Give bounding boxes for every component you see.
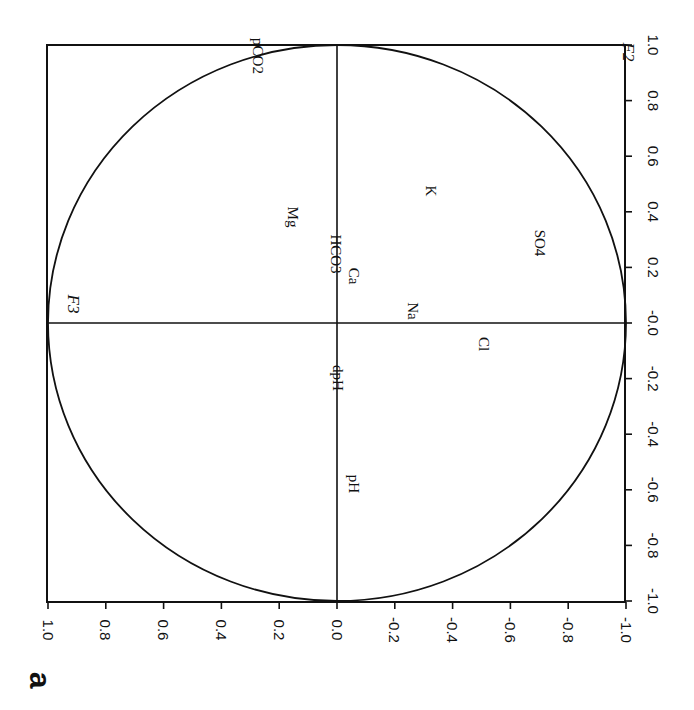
variable-label-k: K — [423, 186, 439, 197]
bottom-tick-label: 0.6 — [155, 620, 172, 641]
variable-labels: pCO2MgHCO3CaKSO4NaCldpHpH — [250, 38, 548, 493]
bottom-tick-label: 1.0 — [40, 620, 57, 641]
right-tick-label: -1.0 — [645, 588, 662, 614]
variable-label-cl: Cl — [476, 337, 492, 351]
bottom-tick-label: -0.8 — [560, 617, 577, 643]
variable-label-mg: Mg — [285, 207, 301, 228]
panel-label: a — [24, 672, 57, 689]
right-tick-label: -0.8 — [645, 532, 662, 558]
right-tick-label: 0.8 — [645, 90, 662, 111]
right-tick-label: -0.2 — [645, 366, 662, 392]
right-tick-label: -0.4 — [645, 421, 662, 447]
right-tick-label: -0.6 — [645, 477, 662, 503]
variable-label-so4: SO4 — [532, 230, 548, 257]
correlation-circle-chart: 1.00.80.60.40.2-0.0-0.2-0.4-0.6-0.8-1.0 … — [0, 0, 694, 710]
right-tick-label: 1.0 — [645, 35, 662, 56]
axis-label-f2: F2 — [619, 42, 638, 62]
axis-label-f3: F3 — [64, 294, 83, 314]
right-tick-label: 0.2 — [645, 257, 662, 278]
bottom-tick-label: -0.4 — [444, 617, 461, 643]
variable-label-pco2: pCO2 — [250, 38, 266, 74]
zero-axes — [47, 45, 625, 602]
right-tick-label: 0.6 — [645, 146, 662, 167]
bottom-tick-label: 0.0 — [329, 620, 346, 641]
bottom-tick-label: -1.0 — [618, 617, 635, 643]
bottom-tick-label: -0.2 — [386, 617, 403, 643]
right-tick-label: -0.0 — [645, 310, 662, 336]
bottom-tick-label: 0.4 — [213, 620, 230, 641]
bottom-tick-label: -0.6 — [502, 617, 519, 643]
variable-label-hco3: HCO3 — [328, 234, 344, 273]
bottom-tick-label: 0.2 — [271, 620, 288, 641]
variable-label-ca: Ca — [346, 268, 362, 285]
right-tick-label: 0.4 — [645, 201, 662, 222]
bottom-tick-label: 0.8 — [97, 620, 114, 641]
variable-label-dph: dpH — [330, 365, 346, 391]
right-axis-ticks: 1.00.80.60.40.2-0.0-0.2-0.4-0.6-0.8-1.0 — [625, 35, 662, 614]
variable-label-na: Na — [405, 302, 421, 320]
variable-label-ph: pH — [346, 475, 362, 494]
bottom-axis-ticks: 1.00.80.60.40.20.0-0.2-0.4-0.6-0.8-1.0 — [40, 602, 635, 643]
